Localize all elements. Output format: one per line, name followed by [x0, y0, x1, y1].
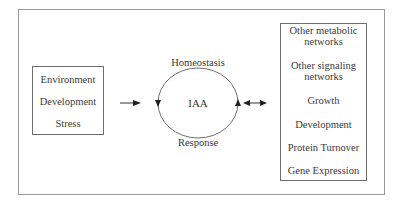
input-item-environment: Environment [33, 74, 103, 86]
output-item-gene-expression: Gene Expression [281, 165, 366, 177]
outputs-box: Other metabolic networks Other signaling… [280, 23, 367, 181]
output-item-metabolic-line2: networks [281, 36, 366, 48]
output-item-development: Development [281, 119, 366, 131]
input-item-development: Development [33, 96, 103, 108]
cycle-bottom-label: Response [158, 137, 238, 149]
cycle-center-label: IAA [178, 97, 218, 109]
output-item-protein-turnover: Protein Turnover [281, 142, 366, 154]
cycle-arrowhead-down-icon [155, 100, 161, 107]
input-item-stress: Stress [33, 118, 103, 130]
cycle-top-label: Homeostasis [158, 57, 238, 69]
bidirectional-arrow-icon [243, 100, 267, 106]
output-item-growth: Growth [281, 95, 366, 107]
input-arrow-icon [120, 100, 141, 106]
inputs-box: Environment Development Stress [32, 66, 104, 135]
cycle-arrowhead-up-icon [235, 99, 241, 106]
output-item-signaling-line2: networks [281, 71, 366, 83]
